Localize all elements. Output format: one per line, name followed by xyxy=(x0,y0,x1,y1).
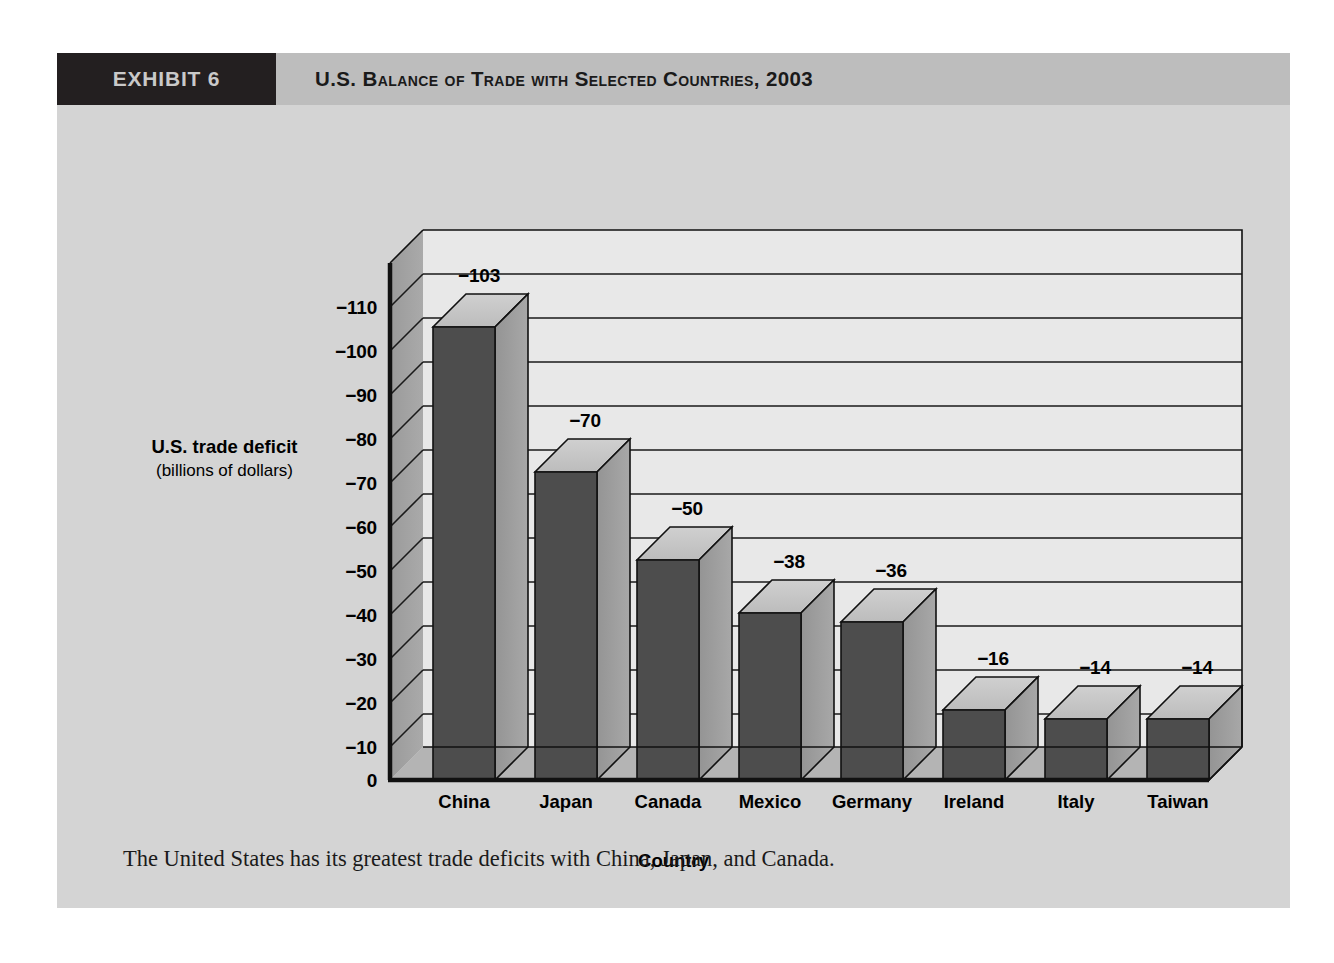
exhibit-number-tab: EXHIBIT 6 xyxy=(57,53,276,105)
bar-value-label: −38 xyxy=(739,551,839,573)
ytick-label: −50 xyxy=(293,561,377,583)
ytick-label: −30 xyxy=(293,649,377,671)
plot-3d: −110 −100 −90 −80 −70 −60 −50 −40 −30 −2… xyxy=(57,105,1290,908)
exhibit-figure: EXHIBIT 6 U.S. Balance of Trade with Sel… xyxy=(57,53,1290,908)
ytick-label: −60 xyxy=(293,517,377,539)
bar-germany xyxy=(841,589,936,780)
xtick-label-china: China xyxy=(414,791,514,813)
ytick-label: −100 xyxy=(293,341,377,363)
ytick-label: 0 xyxy=(293,770,377,792)
chart-area: U.S. trade deficit (billions of dollars) xyxy=(57,105,1290,908)
bar-value-label: −50 xyxy=(637,498,737,520)
exhibit-number-label: EXHIBIT 6 xyxy=(113,67,221,91)
figure-caption: The United States has its greatest trade… xyxy=(123,846,1243,872)
bar-japan xyxy=(535,439,630,780)
xtick-label-canada: Canada xyxy=(618,791,718,813)
xtick-label-ireland: Ireland xyxy=(924,791,1024,813)
xtick-label-taiwan: Taiwan xyxy=(1128,791,1228,813)
bar-value-label: −103 xyxy=(429,265,529,287)
bar-mexico xyxy=(739,580,834,780)
bar-china xyxy=(433,294,528,780)
exhibit-header-band: EXHIBIT 6 U.S. Balance of Trade with Sel… xyxy=(57,53,1290,105)
ytick-label: −40 xyxy=(293,605,377,627)
ytick-label: −10 xyxy=(293,737,377,759)
ytick-label: −20 xyxy=(293,693,377,715)
bar-value-label: −16 xyxy=(943,648,1043,670)
ytick-label: −80 xyxy=(293,429,377,451)
ytick-label: −70 xyxy=(293,473,377,495)
xtick-label-germany: Germany xyxy=(822,791,922,813)
bar-value-label: −14 xyxy=(1147,657,1247,679)
bar-value-label: −36 xyxy=(841,560,941,582)
ytick-label: −110 xyxy=(293,297,377,319)
ytick-label: −90 xyxy=(293,385,377,407)
bar-canada xyxy=(637,527,732,780)
xtick-label-mexico: Mexico xyxy=(720,791,820,813)
bar-value-label: −14 xyxy=(1045,657,1145,679)
bar-value-label: −70 xyxy=(535,410,635,432)
exhibit-title: U.S. Balance of Trade with Selected Coun… xyxy=(315,53,813,105)
xtick-label-italy: Italy xyxy=(1026,791,1126,813)
xtick-label-japan: Japan xyxy=(516,791,616,813)
